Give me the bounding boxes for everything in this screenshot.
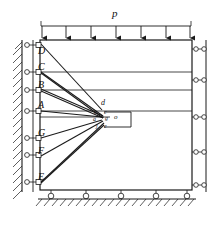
node-label-g: G [38,128,45,138]
center-label-a: a [93,116,96,122]
center-label-j: j [96,123,98,129]
node-label-a: A [38,100,44,110]
right-roller-strip [192,40,206,192]
center-label-b: b [94,109,97,115]
horizontal-grid-lines [40,72,192,117]
center-label-d: d [101,99,105,107]
distributed-load [41,21,191,38]
center-label-e: e [104,123,107,129]
center-label-g: g [105,115,108,121]
node-label-f: F [38,146,44,156]
center-label-o: o [114,114,118,121]
bottom-supports [36,190,196,206]
diagram-canvas [0,0,224,226]
node-label-e: E [38,172,44,182]
node-label-c: C [38,62,45,72]
load-label: p [112,8,118,19]
node-label-b: B [38,80,44,90]
structural-diagram: p D C B A G F E d c g o b a j e [0,0,224,226]
left-fixed-wall [13,40,33,199]
node-label-d: D [38,46,45,56]
